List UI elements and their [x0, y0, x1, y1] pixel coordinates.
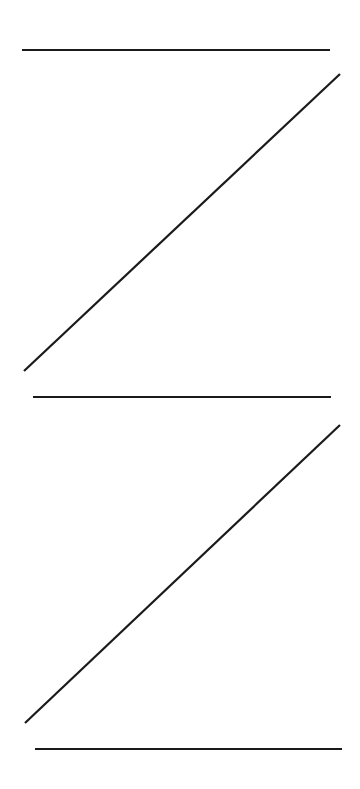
- lower-diagonal-line: [25, 425, 340, 723]
- zigzag-diagram: [0, 0, 360, 789]
- upper-diagonal-line: [24, 74, 340, 371]
